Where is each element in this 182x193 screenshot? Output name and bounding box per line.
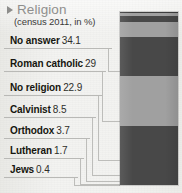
legend-row-rule [4, 117, 96, 118]
legend-row-value: 29 [85, 58, 96, 69]
bar-segment [120, 37, 178, 76]
legend-row-value: 34.1 [62, 35, 81, 46]
bar-segment [120, 22, 178, 37]
legend-row-text: Roman catholic29 [10, 54, 96, 70]
legend-row-rule [4, 71, 106, 72]
legend-label-list: No answer34.1Roman catholic29No religion… [0, 0, 120, 193]
legend-row-text: Calvinist8.5 [10, 100, 66, 116]
stacked-bar [120, 12, 178, 185]
legend-row-rule [4, 158, 84, 159]
legend-row-text: Orthodox3.7 [10, 121, 70, 137]
legend-row-text: Jews0.4 [10, 160, 50, 176]
legend-row-value: 0.4 [36, 164, 50, 175]
legend-row: No answer34.1 [0, 31, 118, 49]
legend-row-name: Lutheran [10, 145, 52, 156]
legend-row-name: Jews [10, 164, 34, 175]
legend-row: Roman catholic29 [0, 54, 118, 72]
religion-chart-figure: Religion (census 2011, in %) No answer34… [0, 0, 182, 193]
legend-row-text: No religion22.9 [10, 78, 82, 94]
legend-row: Jews0.4 [0, 160, 118, 178]
legend-row-text: No answer34.1 [10, 31, 81, 47]
legend-row-value: 3.7 [56, 125, 70, 136]
legend-row-value: 22.9 [63, 82, 82, 93]
legend-row-name: No religion [10, 82, 61, 93]
legend-row-value: 8.5 [53, 104, 67, 115]
legend-row-name: Roman catholic [10, 58, 83, 69]
legend-row-rule [4, 177, 78, 178]
legend-row: Lutheran1.7 [0, 141, 118, 159]
legend-row: Orthodox3.7 [0, 121, 118, 139]
legend-row-name: No answer [10, 35, 60, 46]
bar-segment [120, 76, 178, 126]
legend-row: No religion22.9 [0, 78, 118, 96]
legend-row-name: Orthodox [10, 125, 54, 136]
legend-row-text: Lutheran1.7 [10, 141, 68, 157]
legend-row-rule [4, 48, 112, 49]
legend-row-name: Calvinist [10, 104, 51, 115]
legend-row-value: 1.7 [54, 145, 68, 156]
legend-row-rule [4, 138, 90, 139]
legend-row-rule [4, 95, 102, 96]
bar-segment [120, 126, 178, 185]
legend-row: Calvinist8.5 [0, 100, 118, 118]
